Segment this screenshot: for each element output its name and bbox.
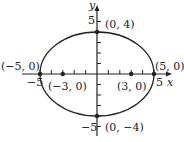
y-axis-label: y xyxy=(88,0,96,12)
label-point-0-4: (0, 4) xyxy=(105,18,135,31)
point-vertex-top xyxy=(95,30,99,34)
point-focus-right xyxy=(129,72,133,76)
point-focus-left xyxy=(61,72,65,76)
diagram-canvas: y x 5 −5 −5 5 (0, 4) (0, −4) (−5, 0) (5,… xyxy=(0,0,184,142)
label-point-0-neg4: (0, −4) xyxy=(105,121,144,134)
tick-label-x-5: −5 xyxy=(27,76,43,89)
label-point-neg3-0: (−3, 0) xyxy=(48,80,87,93)
tick-label-y5: 5 xyxy=(88,14,95,27)
tick-label-x5: 5 xyxy=(156,76,163,89)
y-axis-arrow-icon xyxy=(95,5,100,11)
tick-label-y-5: −5 xyxy=(81,121,97,134)
ellipse-diagram: y x 5 −5 −5 5 (0, 4) (0, −4) (−5, 0) (5,… xyxy=(0,0,184,142)
label-point-neg5-0: (−5, 0) xyxy=(1,60,40,73)
label-point-5-0: (5, 0) xyxy=(155,60,184,73)
point-vertex-bottom xyxy=(95,114,99,118)
label-point-3-0: (3, 0) xyxy=(117,80,147,93)
x-axis-label: x xyxy=(167,76,174,89)
